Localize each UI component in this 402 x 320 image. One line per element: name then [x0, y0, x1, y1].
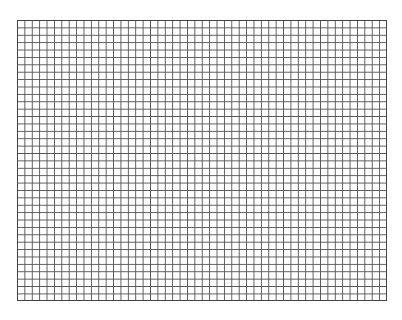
clipped-caption [20, 0, 320, 3]
grid-paper [17, 20, 387, 301]
